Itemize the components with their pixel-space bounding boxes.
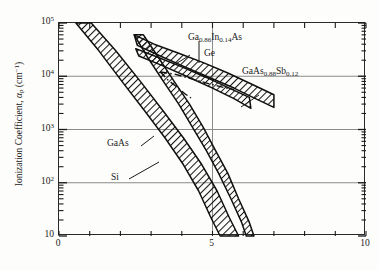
curve-label-si: Si xyxy=(111,173,119,183)
y-axis-title-symbol: α xyxy=(14,93,24,98)
y-axis-title: Ionization Coefficient, αp (cm−1) xyxy=(13,19,25,229)
y-tick-label-1e3: 103 xyxy=(41,123,54,134)
faint-header-text xyxy=(6,0,146,9)
leader-line-si xyxy=(129,162,159,179)
curve-label-ge-text: Ge xyxy=(204,48,215,58)
curve-label-si-text: Si xyxy=(111,172,119,182)
curve-label-gaassb-sub2: 0.12 xyxy=(286,70,298,78)
y-tick-exponent: 4 xyxy=(51,68,55,76)
curve-label-gaas: GaAs xyxy=(107,139,129,149)
y-tick-exponent: 3 xyxy=(51,122,55,130)
curve-label-gaassb-mid: Sb xyxy=(276,66,286,76)
curve-label-gainas: Ga0.86In0.14As xyxy=(188,33,242,44)
y-tick-mantissa: 10 xyxy=(41,176,51,186)
y-tick-mantissa: 10 xyxy=(41,16,51,26)
y-tick-wrap-1e3: 103 xyxy=(22,129,54,130)
y-tick-label-1e5: 105 xyxy=(41,16,54,27)
plot-area: Ga0.86In0.14As Ge GaAs0.88Sb0.12 GaAs Si xyxy=(58,22,365,235)
y-axis-title-prefix: Ionization Coefficient, xyxy=(14,98,24,186)
y-tick-label-1e4: 104 xyxy=(41,69,54,80)
y-tick-mantissa: 10 xyxy=(41,123,51,133)
x-tick-label-10: 10 xyxy=(353,239,377,249)
curve-label-gainas-sub2: 0.14 xyxy=(219,36,231,44)
x-tick-label-5: 5 xyxy=(200,239,224,249)
curve-label-gaas-text: GaAs xyxy=(107,138,129,148)
y-axis-title-unit-exponent: −1 xyxy=(13,65,21,72)
figure-root: Ionization Coefficient, αp (cm−1) 105 10… xyxy=(0,0,379,270)
curve-label-gaassb: GaAs0.88Sb0.12 xyxy=(242,67,298,78)
y-tick-exponent: 2 xyxy=(51,175,55,183)
y-tick-label-1e2: 102 xyxy=(41,176,54,187)
curve-label-gainas-post: As xyxy=(232,32,243,42)
y-tick-exponent: 5 xyxy=(51,15,55,23)
y-tick-wrap-1e4: 104 xyxy=(22,75,54,76)
y-axis-title-symbol-sub: p xyxy=(17,90,25,94)
y-tick-mantissa: 10 xyxy=(41,69,51,79)
y-tick-wrap-1e5: 105 xyxy=(22,22,54,23)
y-axis-title-unit-close: ) xyxy=(14,62,24,65)
curve-label-gainas-pre: Ga xyxy=(188,32,199,42)
curve-label-gaassb-pre: GaAs xyxy=(242,66,264,76)
curve-label-gaassb-sub1: 0.88 xyxy=(264,70,276,78)
x-tick-label-0: 0 xyxy=(46,239,70,249)
leader-line-gaas xyxy=(141,136,154,146)
y-tick-mantissa: 10 xyxy=(45,229,55,239)
y-tick-label-10: 10 xyxy=(45,229,55,240)
curve-label-gainas-sub1: 0.86 xyxy=(199,36,211,44)
y-tick-wrap-10: 10 xyxy=(22,235,54,236)
curve-label-ge: Ge xyxy=(204,49,215,59)
y-tick-wrap-1e2: 102 xyxy=(22,182,54,183)
